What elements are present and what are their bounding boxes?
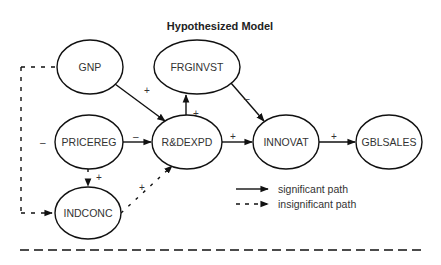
node-gnp: GNP — [57, 40, 123, 94]
sign-frginvst-innovat: – — [244, 93, 250, 104]
sign-indconc-rdexpd: + — [139, 182, 145, 193]
edge-indconc-rdexpd — [121, 166, 172, 213]
sign-gnp-rdexpd: + — [144, 85, 150, 96]
node-label-gblsales: GBLSALES — [362, 136, 417, 148]
sign-rdexpd-innovat: + — [230, 131, 236, 142]
node-frginvst: FRGINVST — [154, 40, 240, 94]
sign-pricereg-indconc: + — [96, 172, 102, 183]
legend: significant path insignificant path — [236, 183, 356, 210]
node-label-rdexpd: R&DEXPD — [162, 136, 213, 148]
node-pricereg: PRICEREG — [55, 115, 123, 169]
legend-significant-label: significant path — [278, 183, 348, 195]
left-dashed-bracket — [21, 67, 56, 213]
node-label-frginvst: FRGINVST — [170, 61, 224, 73]
node-innovat: INNOVAT — [253, 115, 319, 169]
node-label-pricereg: PRICEREG — [62, 136, 117, 148]
sign-left-pricereg: – — [40, 137, 46, 148]
legend-insignificant-label: insignificant path — [278, 198, 356, 210]
node-gblsales: GBLSALES — [356, 115, 422, 169]
sign-innovat-gblsales: + — [331, 131, 337, 142]
diagram-title: Hypothesized Model — [167, 20, 273, 32]
node-label-indconc: INDCONC — [64, 207, 113, 219]
node-indconc: INDCONC — [55, 187, 121, 239]
edge-gnp-rdexpd — [115, 84, 165, 121]
node-label-gnp: GNP — [79, 61, 102, 73]
node-rdexpd: R&DEXPD — [152, 115, 222, 169]
sign-pricereg-rdexpd: – — [133, 131, 139, 142]
node-label-innovat: INNOVAT — [263, 136, 309, 148]
path-diagram: Hypothesized Model – + + – – + + + + GNP… — [0, 0, 441, 265]
